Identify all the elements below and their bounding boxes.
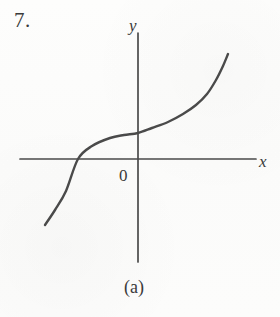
graph-plot: y x 0 bbox=[0, 0, 280, 317]
y-axis-label: y bbox=[127, 16, 137, 35]
figure-container: 7. y x 0 (a) bbox=[0, 0, 280, 317]
x-axis-label: x bbox=[258, 152, 267, 171]
curve-path bbox=[45, 54, 228, 225]
figure-caption-label: (a) bbox=[124, 278, 144, 296]
origin-label: 0 bbox=[119, 166, 128, 185]
